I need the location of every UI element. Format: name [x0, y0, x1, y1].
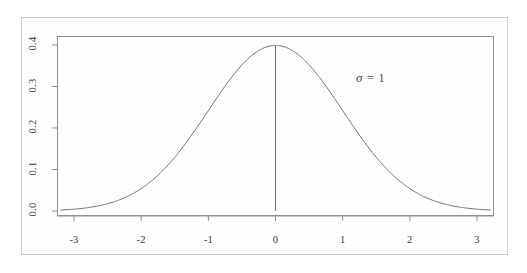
y-tick-label: 0.2	[27, 115, 38, 139]
x-tick-label: -3	[59, 234, 89, 245]
equals-sign: =	[367, 70, 375, 85]
sigma-annotation: σ = 1	[356, 70, 385, 86]
sigma-symbol: σ	[356, 70, 363, 85]
y-tick-label: 0.1	[27, 156, 38, 180]
x-axis-tick-marks	[74, 216, 477, 221]
y-axis-tick-marks	[52, 45, 57, 211]
x-tick-label: 2	[395, 234, 425, 245]
y-tick-label: 0.0	[27, 198, 38, 222]
normal-distribution-figure: 0.00.10.20.30.4 -3-2-10123 σ = 1	[0, 0, 527, 273]
sigma-value: 1	[378, 70, 385, 85]
plot-canvas	[0, 0, 527, 273]
y-tick-label: 0.3	[27, 73, 38, 97]
x-tick-label: -1	[193, 234, 223, 245]
y-tick-label: 0.4	[27, 32, 38, 56]
x-tick-label: 1	[328, 234, 358, 245]
x-tick-label: 0	[261, 234, 291, 245]
x-tick-label: 3	[462, 234, 492, 245]
x-tick-label: -2	[126, 234, 156, 245]
